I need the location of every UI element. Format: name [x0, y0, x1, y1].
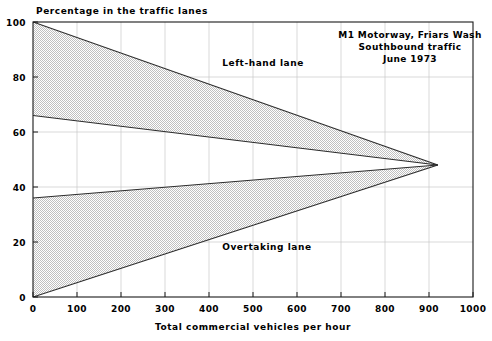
- series-annotation: Left-hand lane: [222, 58, 304, 68]
- x-tick-label: 900: [419, 304, 439, 314]
- y-tick-label: 40: [13, 183, 26, 193]
- y-tick-label: 60: [13, 128, 26, 138]
- y-tick-label: 20: [13, 238, 26, 248]
- y-tick-label: 100: [6, 18, 26, 28]
- chart-figure: 01002003004005006007008009001000 0204060…: [0, 0, 492, 341]
- note-line: Southbound traffic: [358, 42, 461, 52]
- chart-canvas: 01002003004005006007008009001000 0204060…: [0, 0, 492, 341]
- x-tick-label: 700: [331, 304, 351, 314]
- x-tick-label: 300: [155, 304, 175, 314]
- x-tick-label: 800: [375, 304, 395, 314]
- note-line: June 1973: [382, 54, 437, 64]
- x-tick-label: 0: [30, 304, 37, 314]
- y-tick-label: 0: [19, 293, 26, 303]
- x-tick-label: 400: [199, 304, 219, 314]
- x-axis-title: Total commercial vehicles per hour: [155, 322, 351, 332]
- x-tick-label: 200: [111, 304, 131, 314]
- y-axis-title: Percentage in the traffic lanes: [36, 6, 208, 16]
- x-tick-label: 1000: [460, 304, 487, 314]
- series-annotation: Overtaking lane: [222, 242, 311, 252]
- x-tick-label: 600: [287, 304, 307, 314]
- note-line: M1 Motorway, Friars Wash: [338, 30, 481, 40]
- x-tick-label: 500: [243, 304, 263, 314]
- x-tick-label: 100: [67, 304, 87, 314]
- y-tick-label: 80: [13, 73, 26, 83]
